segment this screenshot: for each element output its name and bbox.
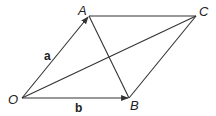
point-label-a: A bbox=[77, 3, 87, 18]
point-label-b: B bbox=[130, 98, 139, 113]
vector-a-line bbox=[22, 17, 88, 98]
vector-label-b: b bbox=[75, 101, 82, 115]
segment-bc bbox=[129, 16, 196, 98]
parallelogram-diagram: O A C B a b bbox=[0, 0, 216, 116]
point-label-c: C bbox=[199, 4, 209, 19]
point-label-o: O bbox=[8, 92, 18, 107]
vector-label-a: a bbox=[44, 49, 51, 63]
diagonal-ab bbox=[89, 16, 129, 98]
